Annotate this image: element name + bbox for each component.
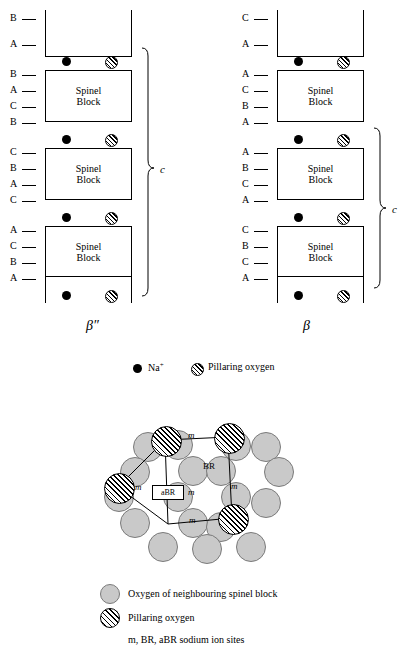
legend-pillaring-oxygen-label: Pillaring oxygen	[128, 612, 194, 623]
legend-oxygen-sphere-icon	[100, 584, 120, 604]
m-site-label: m	[231, 481, 238, 491]
figure-root: B A Spinel Block B A C B Spinel Block C …	[0, 0, 416, 648]
legend-sodium-sites-label: m, BR, aBR sodium ion sites	[128, 634, 244, 645]
pillaring-oxygen-sphere	[104, 473, 135, 504]
m-site-label: m	[188, 430, 195, 440]
abr-site-label: aBR	[152, 485, 184, 500]
pillaring-oxygen-sphere	[151, 426, 182, 457]
m-site-label: m	[188, 487, 195, 497]
m-site-label: m	[135, 482, 142, 492]
br-site-label: BR	[203, 461, 215, 471]
legend-pillaring-sphere-icon	[100, 608, 120, 628]
pillaring-oxygen-sphere	[218, 504, 249, 535]
m-site-label: m	[189, 515, 196, 525]
site-network-svg	[0, 0, 416, 648]
legend-oxygen-label: Oxygen of neighbouring spinel block	[128, 588, 277, 599]
pillaring-oxygen-sphere	[214, 423, 245, 454]
